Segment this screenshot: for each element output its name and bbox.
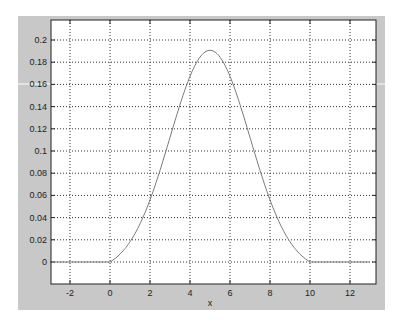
y-tick-labels: 00.020.040.060.080.10.120.140.160.180.2 — [29, 35, 47, 267]
x-tick-label: 10 — [305, 288, 315, 298]
y-tick-label: 0.02 — [29, 235, 47, 245]
x-tick-label: 12 — [345, 288, 355, 298]
chart: -2024681012 00.020.040.060.080.10.120.14… — [0, 0, 401, 325]
x-axis-label: x — [208, 298, 213, 308]
plot-area — [51, 20, 376, 284]
x-tick-labels: -2024681012 — [66, 288, 355, 298]
x-tick-label: 6 — [227, 288, 232, 298]
y-tick-label: 0.08 — [29, 168, 47, 178]
y-tick-label: 0.2 — [34, 35, 47, 45]
y-tick-label: 0.12 — [29, 124, 47, 134]
x-tick-label: 2 — [147, 288, 152, 298]
y-tick-label: 0.16 — [29, 79, 47, 89]
y-tick-label: 0.14 — [29, 102, 47, 112]
x-tick-label: 8 — [267, 288, 272, 298]
y-tick-label: 0 — [42, 257, 47, 267]
x-tick-label: 4 — [187, 288, 192, 298]
y-tick-label: 0.18 — [29, 57, 47, 67]
y-tick-label: 0.06 — [29, 190, 47, 200]
y-tick-label: 0.04 — [29, 213, 47, 223]
x-tick-label: -2 — [66, 288, 74, 298]
y-tick-label: 0.1 — [34, 146, 47, 156]
x-tick-label: 0 — [107, 288, 112, 298]
